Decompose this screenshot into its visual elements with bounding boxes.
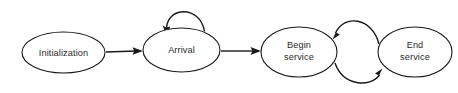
edge-arc [336, 21, 380, 44]
edge-line [106, 51, 136, 52]
node-label-begin-service-line2: service [284, 52, 314, 62]
edge-begin-service-to-end-service [335, 63, 383, 83]
edge-arc [335, 63, 380, 83]
node-label-initialization: Initialization [39, 48, 88, 58]
node-initialization[interactable]: Initialization [22, 32, 105, 73]
node-label-begin-service-line1: Begin [287, 40, 311, 50]
node-begin-service[interactable]: Begin service [261, 27, 337, 77]
edge-end-service-to-begin-service [333, 21, 380, 44]
node-label-end-service-line1: End [407, 40, 424, 50]
state-diagram-canvas: Initialization Arrival Begin service End… [0, 0, 458, 93]
node-end-service[interactable]: End service [378, 27, 452, 77]
edge-initialization-to-arrival [106, 47, 143, 55]
node-arrival[interactable]: Arrival [143, 28, 220, 72]
node-label-end-service-line2: service [400, 52, 430, 62]
node-label-arrival: Arrival [168, 45, 195, 55]
state-diagram: Initialization Arrival Begin service End… [0, 0, 458, 93]
edge-arrival-to-begin-service [221, 47, 261, 55]
